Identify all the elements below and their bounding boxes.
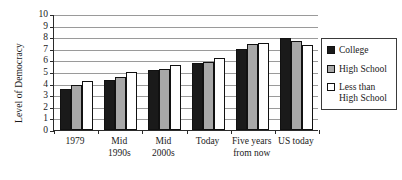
legend-swatch-icon [327,83,335,91]
plot-area: 109876543210 [53,15,318,131]
bar [60,89,71,130]
y-tick-label: 2 [43,103,48,113]
bar [82,81,93,130]
bar [71,85,82,130]
bar [192,63,203,130]
bar [214,58,225,130]
bars-layer [54,15,318,130]
bar-group [98,15,142,130]
bar [115,77,126,130]
y-axis-title: Level of Democracy [14,28,28,138]
legend-item: College [327,45,391,56]
bar [104,80,115,130]
x-tick-mark [319,130,320,134]
legend-swatch-icon [327,46,335,54]
bar [302,45,313,130]
bar [203,62,214,130]
chart-legend: CollegeHigh SchoolLess than High School [321,38,397,110]
legend-item: Less than High School [327,82,391,103]
y-tick-label: 7 [43,45,48,55]
x-axis-label: Mid 1990s [97,136,141,159]
bar [236,49,247,130]
legend-label: Less than High School [339,82,387,103]
x-axis-label: Today [186,136,230,148]
bar-group [231,15,275,130]
bar-group [142,15,186,130]
legend-item: High School [327,64,391,75]
y-tick-label: 4 [43,80,48,90]
bar-group [187,15,231,130]
x-axis-label: Mid 2000s [141,136,185,159]
bar [291,41,302,130]
x-tick-mark [231,130,232,134]
bar-group [275,15,319,130]
x-tick-mark [275,130,276,134]
bar [247,44,258,130]
y-tick-label: 9 [43,22,48,32]
y-tick-label: 6 [43,57,48,67]
x-tick-mark [54,130,55,134]
y-tick-label: 10 [39,10,49,20]
x-tick-mark [98,130,99,134]
legend-swatch-icon [327,65,335,73]
bar-chart: Level of Democracy 109876543210 1979Mid … [0,0,402,180]
x-tick-mark [142,130,143,134]
y-tick-label: 1 [43,115,48,125]
y-tick-label: 8 [43,33,48,43]
legend-label: High School [339,64,387,75]
y-tick-label: 0 [43,126,48,136]
y-tick-label: 3 [43,91,48,101]
x-axis-label: Five years from now [230,136,274,159]
bar-group [54,15,98,130]
bar [258,43,269,130]
legend-label: College [339,45,369,56]
bar [280,38,291,130]
y-tick-label: 5 [43,68,48,78]
bar [159,69,170,130]
bar [126,72,137,130]
bar [148,70,159,130]
x-axis-label: 1979 [53,136,97,148]
x-axis-label: US today [274,136,318,148]
bar [170,65,181,130]
x-tick-mark [187,130,188,134]
